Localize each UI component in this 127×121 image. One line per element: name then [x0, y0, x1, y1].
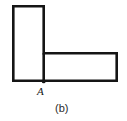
figure-container: A (b) [0, 0, 127, 121]
point-a-label: A [37, 86, 44, 97]
figure-caption: (b) [55, 103, 68, 114]
l-shape-outline-path [13, 6, 116, 80]
point-a-marker-dot [42, 80, 46, 84]
